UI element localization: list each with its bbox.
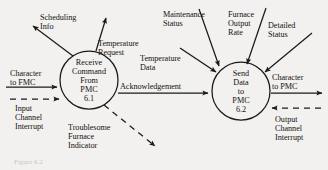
flow-label-character-to-pmc-line1: Character [272, 73, 303, 82]
flow-label-input-channel-interrupt-line1: Input [15, 104, 32, 113]
flow-label-temperature-request-line2: Request [98, 48, 124, 57]
process-label-6-1-line1: Receive [76, 58, 102, 67]
flow-label-troublesome-line2: Furnace [68, 132, 94, 141]
flow-label-furnace-output-rate: FurnaceOutputRate [228, 10, 254, 38]
process-label-6-1-line2: Command [72, 67, 106, 76]
flow-label-scheduling-info-line2: Info [40, 22, 53, 31]
flow-label-input-channel-interrupt-line2: Channel [15, 113, 42, 122]
flow-label-maintenance-status: MaintenanceStatus [163, 10, 205, 28]
process-label-6-2-line1: Send [233, 69, 249, 78]
flow-label-furnace-output-rate-line1: Furnace [228, 10, 254, 19]
flow-label-input-channel-interrupt-line3: Interrupt [15, 122, 43, 131]
flow-label-troublesome-line1: Troublesome [68, 123, 110, 132]
flow-label-furnace-output-rate-line2: Output [228, 19, 250, 28]
process-number-6-1: 6.1 [84, 94, 94, 103]
flow-label-temperature-data-line1: Temperature [140, 54, 181, 63]
flow-label-output-channel-interrupt-line2: Channel [275, 124, 302, 133]
flow-label-troublesome-line3: Indicator [68, 141, 97, 150]
flow-label-maintenance-status-line2: Status [163, 19, 183, 28]
flow-label-troublesome-furnace-indicator: TroublesomeFurnaceIndicator [68, 123, 110, 151]
flow-label-temperature-data: TemperatureData [140, 54, 181, 72]
flow-label-furnace-output-rate-line3: Rate [228, 28, 243, 37]
flow-label-character-to-fmc-line1: Character [10, 69, 41, 78]
flow-label-output-channel-interrupt-line1: Output [275, 115, 297, 124]
figure-caption: Figure 6.2 [14, 158, 43, 166]
flow-label-scheduling-info: SchedulingInfo [40, 13, 76, 31]
process-label-6-2-line4: PMC [232, 96, 249, 105]
flow-label-temperature-request-line1: Temperature [98, 39, 139, 48]
flow-label-input-channel-interrupt: InputChannelInterrupt [15, 104, 43, 132]
flow-label-output-channel-interrupt-line3: Interrupt [275, 133, 303, 142]
flow-arrow-troublesome-furnace-indicator [104, 105, 155, 146]
flow-label-character-to-pmc-line2: to PMC [272, 82, 297, 91]
flow-label-temperature-request: TemperatureRequest [98, 39, 139, 57]
flow-label-character-to-fmc-line2: to FMC [10, 78, 35, 87]
flow-label-character-to-fmc: Characterto FMC [10, 69, 41, 87]
flow-label-character-to-pmc: Characterto PMC [272, 73, 303, 91]
flow-label-detailed-status: DetailedStatus [268, 21, 295, 39]
process-label-6-2-line3: to [238, 87, 244, 96]
process-label-6-1-line3: From [80, 76, 98, 85]
flow-label-acknowledgement-text: Acknowledgement [120, 82, 181, 91]
process-label-6-2: SendDatatoPMC6.2 [211, 69, 271, 114]
process-label-6-1: ReceiveCommandFromPMC6.1 [59, 58, 119, 103]
process-label-6-2-line2: Data [233, 78, 248, 87]
flow-label-maintenance-status-line1: Maintenance [163, 10, 205, 19]
flow-label-scheduling-info-line1: Scheduling [40, 13, 76, 22]
flow-label-output-channel-interrupt: OutputChannelInterrupt [275, 115, 303, 143]
flow-label-detailed-status-line1: Detailed [268, 21, 295, 30]
process-number-6-2: 6.2 [236, 105, 246, 114]
process-label-6-1-line4: PMC [80, 85, 97, 94]
flow-label-temperature-data-line2: Data [140, 63, 155, 72]
flow-label-acknowledgement: Acknowledgement [120, 82, 181, 91]
flow-label-detailed-status-line2: Status [268, 30, 288, 39]
